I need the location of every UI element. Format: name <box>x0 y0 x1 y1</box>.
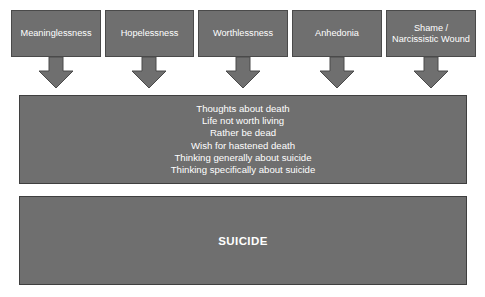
thought-line: Thoughts about death <box>196 103 289 115</box>
thought-line: Thinking specifically about suicide <box>171 164 316 176</box>
factor-box-label: Meaninglessness <box>15 28 97 39</box>
factor-box-label: Worthlessness <box>202 28 284 39</box>
thought-line: Thinking generally about suicide <box>174 152 311 164</box>
down-arrow-icon-meaninglessness <box>38 57 74 89</box>
down-arrow-icon-hopelessness <box>131 57 167 89</box>
factor-box-worthlessness[interactable]: Worthlessness <box>198 10 288 57</box>
outcome-block-suicide[interactable]: SUICIDE <box>19 196 467 285</box>
thought-line: Rather be dead <box>210 127 276 139</box>
diagram-canvas: Meaninglessness Hopelessness Worthlessne… <box>0 0 485 297</box>
suicidal-thoughts-block[interactable]: Thoughts about death Life not worth livi… <box>19 95 467 184</box>
factor-box-label: Hopelessness <box>109 28 190 39</box>
outcome-label: SUICIDE <box>218 235 267 247</box>
down-arrow-icon-worthlessness <box>225 57 261 89</box>
factor-box-anhedonia[interactable]: Anhedonia <box>292 10 382 57</box>
factor-box-label: Shame / Narcissistic Wound <box>390 23 472 45</box>
down-arrow-icon-anhedonia <box>319 57 355 89</box>
factor-box-hopelessness[interactable]: Hopelessness <box>105 10 194 57</box>
factor-box-label: Anhedonia <box>296 28 378 39</box>
thought-line: Life not worth living <box>202 115 284 127</box>
down-arrow-icon-shame <box>413 57 449 89</box>
factor-box-shame-narcissistic-wound[interactable]: Shame / Narcissistic Wound <box>386 10 476 57</box>
factor-box-meaninglessness[interactable]: Meaninglessness <box>11 10 101 57</box>
thought-line: Wish for hastened death <box>191 140 295 152</box>
